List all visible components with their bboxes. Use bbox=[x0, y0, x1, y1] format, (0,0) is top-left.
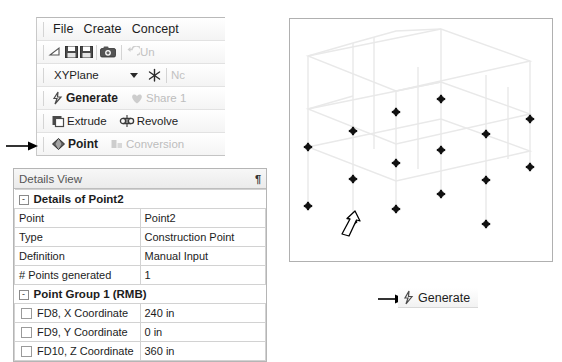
undo-icon[interactable] bbox=[126, 46, 140, 59]
extrude-row-grip bbox=[43, 114, 44, 129]
collapse-toggle-icon[interactable]: - bbox=[19, 195, 29, 205]
construction-point[interactable] bbox=[392, 205, 400, 213]
plane-row-grip bbox=[43, 68, 44, 83]
new-plane-star-icon[interactable] bbox=[147, 68, 162, 83]
point-tool-callout-arrow bbox=[6, 139, 40, 157]
menu-item-concept[interactable]: Concept bbox=[127, 22, 184, 36]
point-conversion-row: Point Conversion bbox=[37, 133, 225, 156]
construction-point[interactable] bbox=[437, 95, 445, 103]
share-topology-button[interactable]: Share 1 bbox=[127, 89, 189, 108]
heart-icon bbox=[130, 92, 144, 105]
collapse-toggle-icon[interactable]: - bbox=[19, 290, 29, 300]
details-view-title: Details View bbox=[19, 173, 82, 185]
construction-point[interactable] bbox=[437, 146, 445, 154]
menu-bar: File Create Concept bbox=[37, 18, 225, 41]
conversion-button[interactable]: Conversion bbox=[107, 135, 187, 154]
row-checkbox[interactable] bbox=[21, 346, 32, 357]
conversion-icon bbox=[110, 138, 124, 151]
extrude-icon bbox=[51, 114, 65, 128]
table-row[interactable]: FD8, X Coordinate 240 in bbox=[15, 304, 266, 323]
3d-model-viewport[interactable] bbox=[289, 18, 553, 262]
plane-select-value[interactable]: XYPlane bbox=[48, 69, 116, 81]
plane-row-separator bbox=[166, 68, 167, 83]
new-sketch-icon[interactable] bbox=[48, 45, 64, 59]
construction-point[interactable] bbox=[304, 202, 312, 210]
chevron-down-icon[interactable] bbox=[130, 73, 138, 78]
property-label-cell: FD10, Z Coordinate bbox=[15, 342, 141, 361]
revolve-button[interactable]: Revolve bbox=[116, 112, 182, 131]
share-topology-label: Share 1 bbox=[146, 92, 186, 104]
construction-point[interactable] bbox=[349, 175, 357, 183]
property-label: FD8, X Coordinate bbox=[37, 307, 128, 319]
conversion-label: Conversion bbox=[126, 138, 184, 150]
section-title: Details of Point2 bbox=[34, 193, 124, 205]
point-diamond-icon bbox=[51, 137, 66, 151]
generate-button-label: Generate bbox=[66, 91, 118, 105]
row-checkbox[interactable] bbox=[21, 308, 32, 319]
property-value[interactable]: 1 bbox=[140, 266, 266, 285]
quick-access-grip bbox=[43, 45, 44, 60]
property-value[interactable]: 360 in bbox=[140, 342, 266, 361]
lightning-bolt-icon bbox=[402, 290, 415, 305]
save-as-icon[interactable] bbox=[79, 45, 94, 59]
table-row[interactable]: Point Point2 bbox=[15, 209, 266, 228]
menu-bar-grip bbox=[43, 22, 44, 37]
modeler-toolbar-panel: File Create Concept bbox=[36, 17, 225, 156]
generate-button[interactable]: Generate bbox=[48, 89, 121, 108]
property-label: Point bbox=[15, 209, 141, 228]
plane-selector-row: XYPlane Nc bbox=[37, 64, 225, 87]
structure-wireframe bbox=[308, 29, 530, 226]
construction-point[interactable] bbox=[482, 176, 490, 184]
table-row[interactable]: # Points generated 1 bbox=[15, 266, 266, 285]
generate-callout-label: Generate bbox=[418, 291, 470, 305]
selected-point-callout-arrow bbox=[342, 211, 360, 236]
construction-point[interactable] bbox=[482, 220, 490, 228]
undo-label: Un bbox=[140, 46, 155, 58]
construction-point[interactable] bbox=[392, 108, 400, 116]
property-value[interactable]: 240 in bbox=[140, 304, 266, 323]
menu-item-create[interactable]: Create bbox=[79, 22, 127, 36]
property-value[interactable]: 0 in bbox=[140, 323, 266, 342]
table-row[interactable]: FD9, Y Coordinate 0 in bbox=[15, 323, 266, 342]
row-checkbox[interactable] bbox=[21, 327, 32, 338]
generate-button-callout[interactable]: Generate bbox=[398, 288, 478, 308]
pin-icon[interactable]: ¶ bbox=[255, 173, 261, 185]
section-header-details-of-point2[interactable]: -Details of Point2 bbox=[15, 190, 266, 209]
quick-access-toolbar: Un bbox=[37, 41, 225, 64]
new-plane-label: Nc bbox=[171, 69, 185, 81]
extrude-label: Extrude bbox=[67, 115, 107, 127]
extrude-revolve-row: Extrude Revolve bbox=[37, 110, 225, 133]
property-label-cell: FD8, X Coordinate bbox=[15, 304, 141, 323]
menu-item-file[interactable]: File bbox=[48, 22, 79, 36]
property-label: Definition bbox=[15, 247, 141, 266]
section-title: Point Group 1 (RMB) bbox=[34, 288, 147, 300]
construction-point[interactable] bbox=[526, 163, 534, 171]
construction-point[interactable] bbox=[526, 115, 534, 123]
table-row[interactable]: Definition Manual Input bbox=[15, 247, 266, 266]
save-icon[interactable] bbox=[64, 45, 79, 59]
viewport-canvas bbox=[290, 19, 550, 259]
generate-share-row: Generate Share 1 bbox=[37, 87, 225, 110]
point-button[interactable]: Point bbox=[48, 135, 101, 154]
property-label-cell: FD9, Y Coordinate bbox=[15, 323, 141, 342]
property-label: # Points generated bbox=[15, 266, 141, 285]
table-row[interactable]: Type Construction Point bbox=[15, 228, 266, 247]
property-value[interactable]: Construction Point bbox=[140, 228, 266, 247]
property-value[interactable]: Manual Input bbox=[140, 247, 266, 266]
section-header-point-group-1[interactable]: -Point Group 1 (RMB) bbox=[15, 285, 266, 304]
lightning-bolt-icon bbox=[51, 91, 64, 105]
details-view-header: Details View ¶ bbox=[14, 169, 266, 189]
construction-points-layer bbox=[304, 95, 534, 228]
construction-point[interactable] bbox=[304, 143, 312, 151]
revolve-label: Revolve bbox=[137, 115, 179, 127]
construction-point[interactable] bbox=[437, 190, 445, 198]
screenshot-camera-icon[interactable] bbox=[99, 45, 117, 59]
construction-point[interactable] bbox=[392, 159, 400, 167]
table-row[interactable]: FD10, Z Coordinate 360 in bbox=[15, 342, 266, 361]
extrude-button[interactable]: Extrude bbox=[48, 112, 110, 131]
property-value[interactable]: Point2 bbox=[140, 209, 266, 228]
revolve-icon bbox=[119, 114, 135, 128]
quick-access-separator-1 bbox=[96, 45, 97, 60]
property-label: FD9, Y Coordinate bbox=[37, 326, 128, 338]
generate-row-grip bbox=[43, 91, 44, 106]
